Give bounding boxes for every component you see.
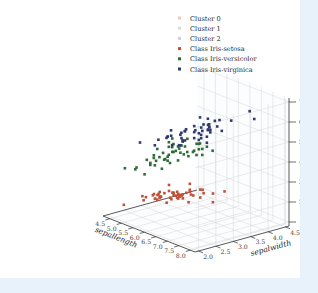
data-point <box>176 196 179 199</box>
data-point <box>142 199 145 202</box>
legend[interactable]: Cluster 0Cluster 1Cluster 2Class Iris-se… <box>178 15 257 74</box>
data-point <box>187 201 190 204</box>
matplotlib-figure: 4.55.05.56.06.57.07.58.02.02.53.03.54.04… <box>0 0 300 278</box>
data-point <box>123 204 126 207</box>
data-point <box>158 156 161 159</box>
data-point <box>186 151 189 154</box>
tick-label-z: 7 <box>299 98 300 105</box>
data-point <box>206 145 209 148</box>
tick-label-z: 3 <box>299 178 300 185</box>
data-point <box>186 137 189 140</box>
legend-entry[interactable]: Class Iris-setosa <box>178 45 245 53</box>
data-point <box>153 154 156 157</box>
data-point <box>199 188 202 191</box>
data-point <box>175 150 178 153</box>
legend-marker[interactable] <box>178 57 181 60</box>
legend-entry[interactable]: Cluster 1 <box>178 25 221 33</box>
data-point <box>163 192 166 195</box>
legend-entry[interactable]: Class Iris-versicolor <box>178 55 257 63</box>
legend-marker[interactable] <box>178 68 181 71</box>
data-point <box>209 128 212 131</box>
legend-entry[interactable]: Cluster 0 <box>178 15 221 23</box>
legend-entry[interactable]: Cluster 2 <box>178 35 221 43</box>
data-point <box>165 201 168 204</box>
tick-mark-x <box>128 228 133 229</box>
data-point <box>208 126 211 129</box>
tick-label-x: 6.5 <box>141 238 151 245</box>
data-point <box>206 135 209 138</box>
tick-mark-x <box>186 250 191 251</box>
data-point <box>178 147 181 150</box>
data-point <box>207 117 210 120</box>
data-point <box>155 160 158 163</box>
data-point <box>160 195 163 198</box>
legend-marker[interactable] <box>178 27 181 30</box>
data-point <box>163 158 166 161</box>
data-point <box>156 198 159 201</box>
data-point <box>201 130 204 133</box>
data-point <box>168 190 171 193</box>
data-point <box>184 145 187 148</box>
tick-label-z: 1 <box>299 218 300 225</box>
data-point <box>152 194 155 197</box>
scatter-plot-3d[interactable]: 4.55.05.56.06.57.07.58.02.02.53.03.54.04… <box>0 0 300 278</box>
tick-label-y: 3.0 <box>238 243 248 250</box>
data-point <box>182 197 185 200</box>
legend-marker[interactable] <box>178 37 181 40</box>
data-point <box>166 159 169 162</box>
data-point <box>156 194 159 197</box>
data-point <box>189 183 192 186</box>
data-point <box>161 167 164 170</box>
data-point <box>221 130 224 133</box>
data-point <box>181 140 184 143</box>
data-point <box>202 192 205 195</box>
data-point <box>152 157 155 160</box>
data-point <box>180 194 183 197</box>
tick-label-y: 4.5 <box>290 229 300 236</box>
data-point <box>169 162 172 165</box>
data-point <box>179 133 182 136</box>
data-point <box>149 164 152 167</box>
tick-mark-x <box>140 232 145 233</box>
legend-label: Cluster 1 <box>190 25 221 33</box>
data-point <box>248 110 251 113</box>
data-point <box>172 191 175 194</box>
tick-mark-x <box>163 241 168 242</box>
legend-marker[interactable] <box>178 17 181 20</box>
data-point <box>185 191 188 194</box>
data-point <box>134 168 137 171</box>
data-point <box>170 134 173 137</box>
data-point <box>218 119 221 122</box>
data-point <box>154 198 157 201</box>
data-point <box>184 139 187 142</box>
data-point <box>170 129 173 132</box>
data-point <box>211 149 214 152</box>
data-point <box>168 154 171 157</box>
data-point <box>199 116 202 119</box>
data-point <box>154 164 157 167</box>
data-point <box>157 138 160 141</box>
data-point <box>171 137 174 140</box>
data-point <box>168 141 171 144</box>
data-point <box>209 131 212 134</box>
data-point <box>189 189 192 192</box>
data-point <box>201 154 204 157</box>
data-point <box>154 144 157 147</box>
data-point <box>200 137 203 140</box>
legend-marker[interactable] <box>178 47 181 50</box>
data-point <box>183 153 186 156</box>
data-point <box>124 167 127 170</box>
data-point <box>198 139 201 142</box>
data-point <box>176 190 179 193</box>
data-point <box>207 129 210 132</box>
data-point <box>156 148 159 151</box>
data-point <box>195 142 198 145</box>
data-point <box>201 148 204 151</box>
data-point <box>192 194 195 197</box>
data-point <box>177 159 180 162</box>
data-point <box>198 148 201 151</box>
legend-entry[interactable]: Class Iris-virginica <box>178 66 253 74</box>
data-point <box>162 152 165 155</box>
tick-label-z: 5 <box>299 138 300 145</box>
data-point <box>200 134 203 137</box>
